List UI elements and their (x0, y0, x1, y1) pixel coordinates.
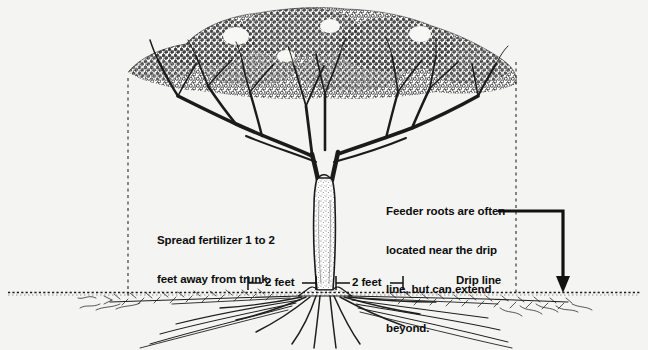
label-dimension-right: 2 feet (352, 276, 381, 289)
label-feeder-roots: Feeder roots are often located near the … (386, 179, 505, 348)
label-feeder-line-4: beyond. (386, 322, 505, 335)
label-feeder-line-1: Feeder roots are often (386, 205, 505, 218)
tree-diagram-illustration (0, 0, 648, 350)
label-fertilizer-line-1: Spread fertilizer 1 to 2 (157, 234, 275, 247)
label-dimension-left: 2 feet (265, 276, 294, 289)
label-drip-line: Drip line (456, 274, 501, 287)
label-fertilizer-line-2: feet away from trunk. (157, 273, 275, 286)
diagram-canvas: Spread fertilizer 1 to 2 feet away from … (0, 0, 648, 350)
label-feeder-line-2: located near the drip (386, 244, 505, 257)
label-spread-fertilizer: Spread fertilizer 1 to 2 feet away from … (157, 208, 275, 299)
